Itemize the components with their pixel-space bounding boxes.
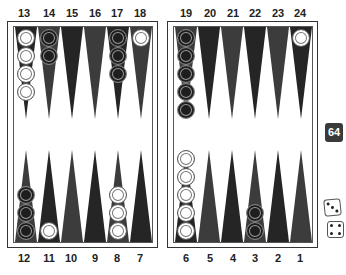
- point-20[interactable]: [198, 27, 220, 119]
- point-label-19: 19: [176, 7, 196, 19]
- checker-black[interactable]: [177, 47, 195, 65]
- point-label-9: 9: [85, 252, 105, 264]
- point-5[interactable]: [198, 150, 220, 242]
- pip: [335, 209, 338, 212]
- pip: [326, 202, 329, 205]
- checker-black[interactable]: [177, 101, 195, 119]
- checker-white[interactable]: [177, 222, 195, 240]
- checker-white[interactable]: [109, 204, 127, 222]
- point-label-14: 14: [39, 7, 59, 19]
- point-label-3: 3: [245, 252, 265, 264]
- point-label-24: 24: [290, 7, 310, 19]
- board-right-inner: [173, 26, 313, 243]
- point-label-15: 15: [62, 7, 82, 19]
- point-16[interactable]: [84, 27, 106, 119]
- point-label-11: 11: [39, 252, 59, 264]
- checker-white[interactable]: [177, 204, 195, 222]
- die-three-icon[interactable]: [323, 198, 342, 217]
- checker-white[interactable]: [292, 29, 310, 47]
- checker-white[interactable]: [17, 65, 35, 83]
- checker-black[interactable]: [17, 186, 35, 204]
- checker-white[interactable]: [17, 83, 35, 101]
- point-9[interactable]: [84, 150, 106, 242]
- checker-white[interactable]: [177, 186, 195, 204]
- point-label-13: 13: [14, 7, 34, 19]
- point-label-21: 21: [223, 7, 243, 19]
- point-label-6: 6: [176, 252, 196, 264]
- pip: [330, 232, 333, 235]
- checker-white[interactable]: [17, 29, 35, 47]
- point-7[interactable]: [130, 150, 152, 242]
- checker-white[interactable]: [40, 222, 58, 240]
- checker-white[interactable]: [177, 168, 195, 186]
- checker-black[interactable]: [17, 222, 35, 240]
- point-21[interactable]: [221, 27, 243, 119]
- checker-white[interactable]: [132, 29, 150, 47]
- point-1[interactable]: [290, 150, 312, 242]
- pip: [330, 224, 333, 227]
- point-4[interactable]: [221, 150, 243, 242]
- checker-white[interactable]: [109, 186, 127, 204]
- checker-black[interactable]: [177, 65, 195, 83]
- point-label-22: 22: [245, 7, 265, 19]
- point-23[interactable]: [267, 27, 289, 119]
- checker-white[interactable]: [109, 222, 127, 240]
- point-label-2: 2: [268, 252, 288, 264]
- checker-black[interactable]: [177, 83, 195, 101]
- doubling-cube[interactable]: 64: [325, 123, 343, 142]
- checker-white[interactable]: [177, 150, 195, 168]
- point-15[interactable]: [61, 27, 83, 119]
- board-left-inner: [13, 26, 153, 243]
- point-label-20: 20: [200, 7, 220, 19]
- checker-white[interactable]: [17, 47, 35, 65]
- checker-black[interactable]: [40, 29, 58, 47]
- checker-black[interactable]: [109, 65, 127, 83]
- checker-black[interactable]: [40, 47, 58, 65]
- checker-black[interactable]: [17, 204, 35, 222]
- point-label-8: 8: [107, 252, 127, 264]
- pip: [338, 232, 341, 235]
- point-label-16: 16: [85, 7, 105, 19]
- point-22[interactable]: [244, 27, 266, 119]
- point-2[interactable]: [267, 150, 289, 242]
- pip: [331, 206, 334, 209]
- die-four-icon[interactable]: [327, 221, 344, 238]
- checker-black[interactable]: [246, 222, 264, 240]
- point-10[interactable]: [61, 150, 83, 242]
- checker-black[interactable]: [246, 204, 264, 222]
- point-label-5: 5: [200, 252, 220, 264]
- point-label-17: 17: [107, 7, 127, 19]
- clipped-caption: [18, 267, 338, 275]
- point-label-1: 1: [290, 252, 310, 264]
- point-label-18: 18: [130, 7, 150, 19]
- checker-black[interactable]: [109, 29, 127, 47]
- point-label-7: 7: [130, 252, 150, 264]
- point-label-4: 4: [223, 252, 243, 264]
- point-label-10: 10: [61, 252, 81, 264]
- checker-black[interactable]: [177, 29, 195, 47]
- checker-black[interactable]: [109, 47, 127, 65]
- point-label-12: 12: [14, 252, 34, 264]
- point-label-23: 23: [268, 7, 288, 19]
- pip: [338, 224, 341, 227]
